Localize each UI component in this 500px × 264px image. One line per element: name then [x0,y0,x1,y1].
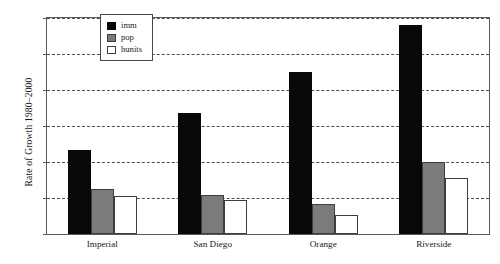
legend-swatch-hunits [107,46,116,54]
bar-pop-san-diego [201,195,224,234]
y-tick-mark [43,198,47,199]
legend-swatch-pop [107,34,116,42]
y-tick-mark [43,90,47,91]
y-tick-mark [43,234,47,235]
bar-imm-orange [289,72,312,234]
bar-group [399,18,468,234]
x-tick-label: Imperial [87,239,118,249]
bar-pop-orange [312,204,335,234]
legend-swatch-imm [107,22,116,30]
legend-label-pop: pop [121,33,134,42]
legend-label-imm: imm [121,21,137,30]
legend-item-hunits: hunits [107,44,142,55]
y-axis-title: Rate of Growth 1980–2000 [24,47,34,217]
legend-item-pop: pop [107,32,142,43]
bar-pop-riverside [422,162,445,234]
bar-hunits-riverside [445,178,468,234]
x-tick-label: Riverside [416,239,451,249]
bar-group [178,18,247,234]
x-tick-label: Orange [310,239,337,249]
y-tick-mark [43,162,47,163]
bar-imm-imperial [68,150,91,234]
legend-item-imm: imm [107,20,142,31]
y-tick-mark [43,54,47,55]
bar-pop-imperial [91,189,114,234]
bar-hunits-orange [335,215,358,234]
bar-group [289,18,358,234]
bar-chart: Rate of Growth 1980–2000 0%50%100%150%20… [0,0,500,264]
bar-hunits-san-diego [224,200,247,234]
bar-imm-san-diego [178,113,201,234]
y-tick-mark [43,126,47,127]
bar-hunits-imperial [114,196,137,234]
x-tick-label: San Diego [193,239,232,249]
legend: immpophunits [100,14,153,61]
legend-label-hunits: hunits [121,45,142,54]
bar-imm-riverside [399,25,422,234]
y-tick-mark [43,18,47,19]
